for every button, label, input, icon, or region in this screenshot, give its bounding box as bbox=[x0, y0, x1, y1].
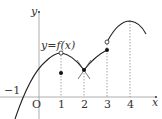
graph: y x y=f(x) O −1 1 2 3 4 bbox=[0, 0, 162, 119]
guide-lines bbox=[61, 21, 130, 97]
origin-label: O bbox=[32, 98, 41, 111]
tick-label-1: 1 bbox=[58, 98, 65, 111]
open-point-x3 bbox=[105, 40, 109, 44]
curve-left bbox=[15, 53, 84, 119]
tick-label-3: 3 bbox=[104, 98, 111, 111]
y-axis-label: y bbox=[30, 5, 38, 18]
filled-point-x2 bbox=[82, 68, 86, 72]
tick-label-4: 4 bbox=[127, 98, 134, 111]
filled-point-x1 bbox=[59, 71, 63, 75]
curve-middle bbox=[84, 50, 107, 70]
filled-point-x3 bbox=[105, 48, 109, 52]
function-label: y=f(x) bbox=[40, 39, 75, 52]
tick-label-2: 2 bbox=[81, 98, 88, 111]
x-axis-label: x bbox=[152, 96, 159, 109]
curve-right bbox=[107, 21, 146, 42]
y-axis-arrow-icon bbox=[38, 11, 40, 13]
neg-one-label: −1 bbox=[4, 84, 20, 97]
